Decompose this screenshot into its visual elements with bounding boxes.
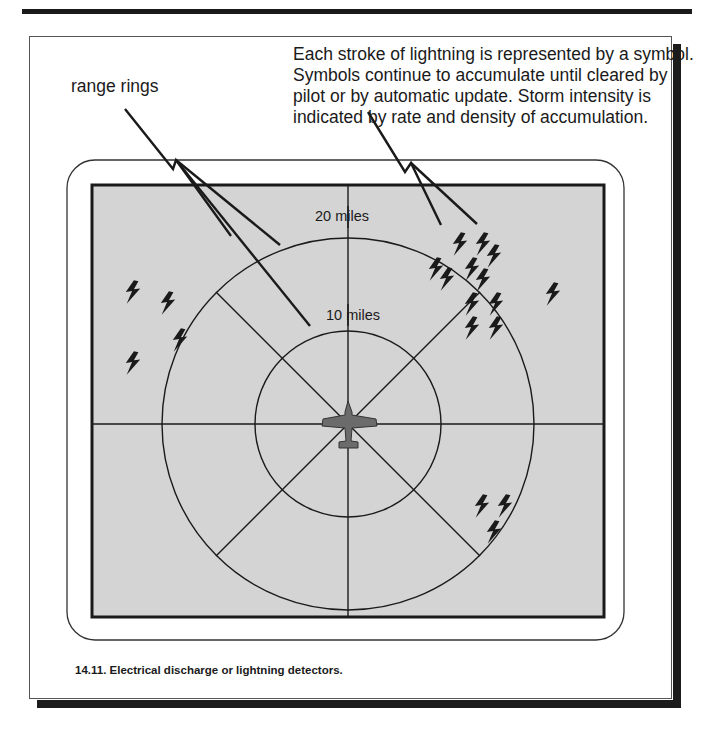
lightning-bolt-icon [487,244,501,267]
lightning-bolt-icon [489,292,503,315]
lightning-bolt-icon [453,232,467,255]
lightning-bolt-icon [546,282,560,305]
lightning-bolt-icon [429,257,443,280]
lightning-bolt-icon [487,520,501,543]
lightning-strikes-upper-right [429,232,560,339]
range-rings-callout [125,109,310,326]
lightning-bolt-icon [126,351,140,374]
lightning-bolt-icon [440,267,454,290]
lightning-bolt-icon [498,494,512,517]
lightning-bolt-icon [475,494,489,517]
lightning-bolt-icon [465,292,479,315]
lightning-bolt-icon [476,232,490,255]
lightning-bolt-icon [465,257,479,280]
lightning-bolt-icon [476,268,490,291]
lightning-strikes-left [126,280,187,374]
lightning-bolt-icon [173,328,187,351]
lightning-bolt-icon [465,316,479,339]
aircraft-icon [322,401,377,448]
diagram-overlay [0,0,712,741]
lightning-bolt-icon [126,280,140,303]
figure-caption: 14.11. Electrical discharge or lightning… [75,664,343,676]
lightning-bolt-icon [161,291,175,314]
lightning-bolt-icon [489,316,503,339]
lightning-strikes-lower-right [475,494,512,543]
lightning-callout [368,112,477,225]
